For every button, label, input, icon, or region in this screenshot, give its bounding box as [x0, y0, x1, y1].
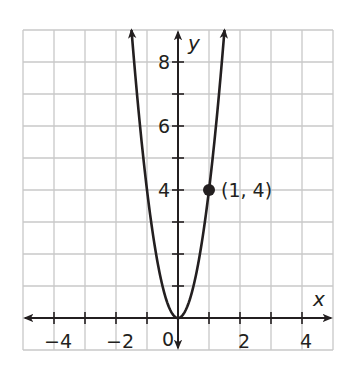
y-tick-label: 4	[158, 179, 170, 201]
y-tick-label: 8	[158, 51, 170, 73]
x-tick-label: 2	[238, 330, 250, 352]
labels: −4−2244680xy(1, 4)	[44, 31, 325, 352]
y-tick-label: 6	[158, 115, 170, 137]
point-label: (1, 4)	[221, 179, 272, 201]
y-axis-label: y	[187, 31, 201, 55]
x-tick-label: −4	[44, 330, 72, 352]
x-tick-label: 4	[300, 330, 312, 352]
parabola-graph: −4−2244680xy(1, 4)	[0, 0, 350, 371]
highlighted-point	[203, 184, 215, 196]
x-axis-label: x	[312, 287, 325, 311]
x-tick-label: −2	[106, 330, 134, 352]
origin-label: 0	[162, 328, 174, 350]
